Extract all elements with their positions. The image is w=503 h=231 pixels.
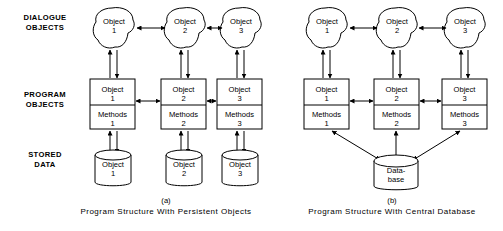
panel-a: Object 1 Object 2 Object 3: [80, 8, 262, 216]
panel-a-stored-data-3[interactable]: Object 3: [222, 150, 258, 186]
panel-b-dialogue-2-line2: 2: [395, 26, 399, 35]
panel-a-program-2-bot2: 2: [181, 119, 185, 128]
panel-b-vertical-link-3: [461, 50, 468, 78]
panel-a-program-1-bot1: Methods: [98, 110, 127, 119]
cylinder-top: [95, 150, 131, 160]
panel-a-program-3-bot2: 3: [237, 119, 241, 128]
panel-b-vertical-link-2: [393, 50, 400, 78]
panel-a-stored-1-line1: Object: [102, 160, 125, 169]
panel-b-program-1-bot2: 1: [324, 119, 328, 128]
panel-a-stored-2-line2: 2: [182, 169, 186, 178]
row-label-dialogue-objects: DIALOGUE OBJECTS: [24, 13, 67, 32]
panel-b-dialogue-3-line2: 3: [463, 26, 467, 35]
row-label-stored-line2: DATA: [34, 160, 56, 169]
panel-b-dialogue-1-line1: Object: [316, 17, 339, 26]
panel-b-db-link-1: [332, 131, 380, 160]
panel-a-program-2-top1: Object: [173, 85, 196, 94]
row-label-program-objects: PROGRAM OBJECTS: [24, 90, 66, 109]
panel-a-program-1-top1: Object: [102, 85, 125, 94]
panel-a-dialogue-2-line2: 2: [183, 26, 187, 35]
panel-a-program-2-top2: 2: [181, 94, 185, 103]
panel-a-stored-data-1[interactable]: Object 1: [95, 150, 131, 186]
cylinder-top: [166, 150, 202, 160]
panel-b-dialogue-object-2[interactable]: Object 2: [376, 8, 417, 48]
panel-b-database-line2: base: [388, 175, 404, 184]
panel-a-program-2-bot1: Methods: [169, 110, 198, 119]
panel-b-dialogue-2-line1: Object: [386, 17, 409, 26]
panel-b-program-2-top1: Object: [386, 85, 409, 94]
panel-a-stored-3-line1: Object: [229, 160, 252, 169]
row-label-stored-data: STORED DATA: [28, 150, 62, 169]
panel-b-program-3-bot2: 3: [462, 119, 466, 128]
panel-b-caption-text: Program Structure With Central Database: [308, 207, 476, 216]
row-label-dialogue-line2: OBJECTS: [26, 23, 64, 32]
panel-b-program-2-bot2: 2: [394, 119, 398, 128]
panel-a-dialogue-1-line2: 1: [112, 26, 116, 35]
panel-a-stored-1-line2: 1: [111, 169, 115, 178]
cylinder-top: [222, 150, 258, 160]
panel-b-dialogue-object-3[interactable]: Object 3: [444, 8, 485, 48]
panel-b-db-link-3: [413, 131, 460, 160]
panel-a-stored-2-line1: Object: [173, 160, 196, 169]
panel-a-stored-3-line2: 3: [238, 169, 242, 178]
panel-b-program-1-top1: Object: [316, 85, 339, 94]
row-label-program-line1: PROGRAM: [24, 90, 66, 99]
panel-a-vertical-link-2: [181, 50, 188, 78]
panel-a-stored-data-2[interactable]: Object 2: [166, 150, 202, 186]
panel-b-program-2-bot1: Methods: [382, 110, 411, 119]
panel-b-program-3-top1: Object: [454, 85, 477, 94]
panel-b-dialogue-3-line1: Object: [454, 17, 477, 26]
panel-a-caption-text: Program Structure With Persistent Object…: [80, 207, 251, 216]
panel-b-caption-letter: (b): [387, 196, 397, 205]
panel-a-dialogue-object-3[interactable]: Object 3: [220, 8, 261, 48]
panel-a-program-object-3[interactable]: Object 3 Methods 3: [217, 79, 262, 129]
panel-a-vertical-link-3: [237, 50, 244, 78]
panel-b-vertical-link-1: [323, 50, 330, 78]
panel-b: Object 1 Object 2 Object 3: [304, 8, 487, 216]
panel-b-program-1-top2: 1: [324, 94, 328, 103]
panel-b-program-object-3[interactable]: Object 3 Methods 3: [442, 79, 487, 129]
row-label-stored-line1: STORED: [28, 150, 62, 159]
panel-a-vertical-link-1: [110, 50, 117, 78]
row-label-dialogue-line1: DIALOGUE: [24, 13, 67, 22]
panel-a-program-3-bot1: Methods: [225, 110, 254, 119]
panel-a-dialogue-1-line1: Object: [103, 17, 126, 26]
panel-a-program-3-top1: Object: [229, 85, 252, 94]
panel-b-dialogue-1-line2: 1: [325, 26, 329, 35]
figure-canvas: DIALOGUE OBJECTS PROGRAM OBJECTS STORED …: [0, 0, 503, 231]
panel-b-database[interactable]: Data- base: [374, 155, 418, 190]
row-label-program-line2: OBJECTS: [26, 100, 64, 109]
panel-b-program-1-bot1: Methods: [312, 110, 341, 119]
panel-b-program-3-top2: 3: [462, 94, 466, 103]
panel-a-program-1-top2: 1: [110, 94, 114, 103]
panel-a-dialogue-2-line1: Object: [174, 17, 197, 26]
panel-b-dialogue-object-1[interactable]: Object 1: [306, 8, 347, 48]
panel-a-program-object-1[interactable]: Object 1 Methods 1: [90, 79, 135, 129]
panel-b-program-object-1[interactable]: Object 1 Methods 1: [304, 79, 349, 129]
panel-a-dialogue-3-line1: Object: [230, 17, 253, 26]
panel-a-program-object-2[interactable]: Object 2 Methods 2: [161, 79, 206, 129]
panel-b-program-object-2[interactable]: Object 2 Methods 2: [374, 79, 419, 129]
panel-a-program-3-top2: 3: [237, 94, 241, 103]
panel-b-program-2-top2: 2: [394, 94, 398, 103]
panel-a-dialogue-3-line2: 3: [239, 26, 243, 35]
panel-a-dialogue-object-2[interactable]: Object 2: [164, 8, 205, 48]
panel-a-caption-letter: (a): [161, 196, 171, 205]
panel-a-dialogue-object-1[interactable]: Object 1: [93, 8, 134, 48]
panel-b-program-3-bot1: Methods: [450, 110, 479, 119]
panel-b-database-line1: Data-: [387, 166, 406, 175]
panel-a-program-1-bot2: 1: [110, 119, 114, 128]
